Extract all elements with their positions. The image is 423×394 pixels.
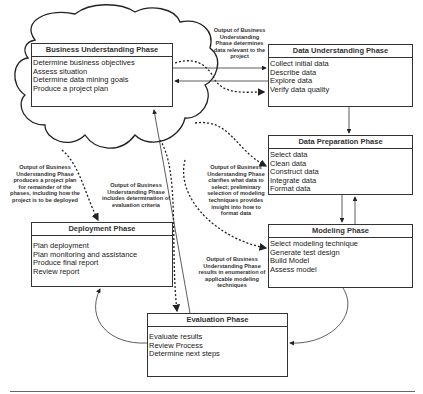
data-understanding-item: Verify data quality [270, 86, 412, 95]
deployment-item: Review report [33, 268, 172, 277]
evaluation-title: Evaluation Phase [148, 314, 287, 327]
evaluation-box: Evaluation Phase Evaluate results Review… [147, 313, 288, 377]
data-preparation-box: Data Preparation Phase Select data Clean… [268, 135, 413, 195]
deployment-title: Deployment Phase [32, 223, 172, 236]
data-preparation-title: Data Preparation Phase [269, 136, 412, 149]
annotation-modeling: Output of Business Understanding Phase r… [196, 256, 268, 289]
evaluation-item: Determine next steps [149, 350, 287, 359]
business-understanding-title: Business Understanding Phase [32, 44, 172, 57]
data-preparation-item: Format data [270, 185, 412, 194]
data-understanding-box: Data Understanding Phase Collect initial… [268, 44, 413, 107]
deployment-box: Deployment Phase Plan deployment Plan mo… [31, 222, 173, 287]
bottom-divider [10, 391, 415, 392]
modeling-title: Modeling Phase [269, 225, 412, 238]
modeling-item: Assess model [270, 266, 412, 275]
data-understanding-title: Data Understanding Phase [269, 45, 412, 58]
annotation-data-understanding: Output of Business Understanding Phase d… [212, 27, 267, 60]
modeling-box: Modeling Phase Select modeling technique… [268, 224, 413, 288]
business-item: Produce a project plan [33, 85, 172, 94]
annotation-evaluation: Output of Business Understanding Phase i… [100, 182, 172, 208]
business-understanding-box: Business Understanding Phase Determine b… [31, 43, 173, 107]
annotation-data-preparation: Output of Business Understanding Phase c… [203, 164, 269, 217]
annotation-deployment: Output of Business Understanding Phase p… [10, 164, 80, 204]
